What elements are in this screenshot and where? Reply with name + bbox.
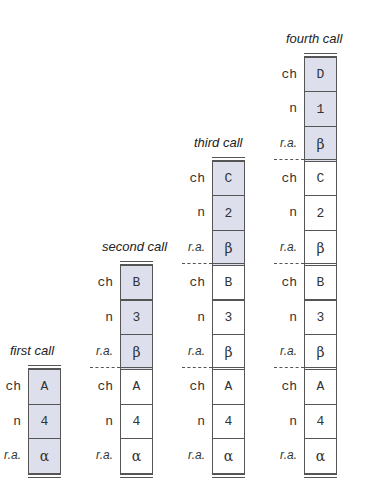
row-label-n: n [257,414,297,429]
frame-cell-n: 4 [120,404,153,440]
row-label-n: n [257,310,297,325]
frame-separator-dashed-line [274,263,304,264]
row-label-n: n [73,414,113,429]
frame-cell-ra: β [304,334,337,370]
frame-cell-ch: B [212,265,245,301]
stack-bottom-double-line [212,474,245,478]
call-title: second call [102,239,167,254]
frame-cell-n: 3 [212,300,245,336]
row-label-ra: r.a. [165,448,205,462]
frame-cell-ra: β [304,126,337,162]
frame-cell-ch: A [212,369,245,405]
row-label-ra: r.a. [165,344,205,358]
frame-cell-ra: α [28,438,61,474]
frame-cell-ch: A [120,369,153,405]
row-label-n: n [0,414,21,429]
frame-cell-ra: α [120,438,153,474]
row-label-n: n [165,205,205,220]
frame-cell-n: 2 [212,195,245,231]
row-label-ch: ch [73,275,113,290]
frame-cell-n: 4 [304,404,337,440]
row-label-ch: ch [257,171,297,186]
row-label-ra: r.a. [0,448,21,462]
frame-cell-ra: β [304,230,337,266]
frame-cell-n: 1 [304,91,337,127]
frame-cell-ch: C [212,161,245,197]
call-title: fourth call [286,31,342,46]
frame-cell-n: 4 [212,404,245,440]
row-label-ch: ch [165,171,205,186]
row-label-ch: ch [0,379,21,394]
stack-bottom-double-line [304,474,337,478]
row-label-ch: ch [165,379,205,394]
frame-cell-n: 4 [28,404,61,440]
stack-bottom-double-line [120,474,153,478]
frame-cell-n: 2 [304,195,337,231]
row-label-n: n [73,310,113,325]
row-label-ch: ch [73,379,113,394]
row-label-ch: ch [165,275,205,290]
frame-cell-ra: β [212,334,245,370]
frame-cell-ch: B [304,265,337,301]
frame-separator-dashed-line [90,367,120,368]
frame-cell-ra: β [212,230,245,266]
call-title: first call [10,343,54,358]
frame-separator-dashed-line [182,367,212,368]
row-label-ra: r.a. [257,136,297,150]
frame-cell-ch: D [304,57,337,93]
row-label-ra: r.a. [73,344,113,358]
row-label-ra: r.a. [257,240,297,254]
frame-cell-n: 3 [120,300,153,336]
frame-cell-ch: B [120,265,153,301]
row-label-n: n [165,414,205,429]
row-label-ch: ch [257,67,297,82]
call-title: third call [194,135,242,150]
row-label-n: n [165,310,205,325]
frame-cell-ch: C [304,161,337,197]
frame-cell-n: 3 [304,300,337,336]
row-label-ch: ch [257,275,297,290]
frame-cell-ra: α [212,438,245,474]
row-label-n: n [257,205,297,220]
frame-cell-ra: α [304,438,337,474]
row-label-n: n [257,101,297,116]
frame-cell-ch: A [304,369,337,405]
row-label-ra: r.a. [73,448,113,462]
frame-separator-dashed-line [274,367,304,368]
row-label-ra: r.a. [257,448,297,462]
frame-separator-dashed-line [182,263,212,264]
stack-bottom-double-line [28,474,61,478]
row-label-ra: r.a. [257,344,297,358]
frame-separator-dashed-line [274,159,304,160]
row-label-ch: ch [257,379,297,394]
frame-cell-ra: β [120,334,153,370]
row-label-ra: r.a. [165,240,205,254]
frame-cell-ch: A [28,369,61,405]
